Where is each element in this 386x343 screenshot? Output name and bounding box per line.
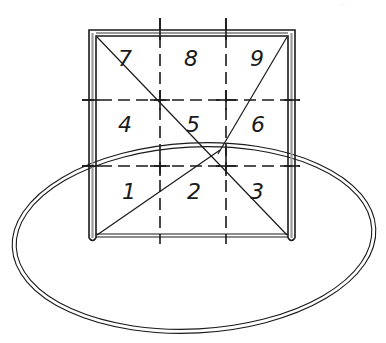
- zone-label-9: 9: [250, 46, 264, 71]
- zone-label-7: 7: [118, 46, 132, 71]
- zone-label-8: 8: [184, 46, 198, 71]
- zone-label-2: 2: [187, 179, 201, 204]
- goal-zones-diagram: ...: [0, 0, 386, 343]
- zone-label-3: 3: [250, 179, 264, 204]
- zone-label-6: 6: [251, 112, 265, 137]
- ellipse-ring: [7, 134, 380, 343]
- page-mark: ...: [340, 0, 347, 7]
- zone-label-1: 1: [122, 179, 136, 204]
- zone-label-5: 5: [186, 112, 200, 137]
- zone-labels: 7 8 9 4 5 6 1 2 3: [118, 46, 265, 204]
- zone-label-4: 4: [118, 112, 132, 137]
